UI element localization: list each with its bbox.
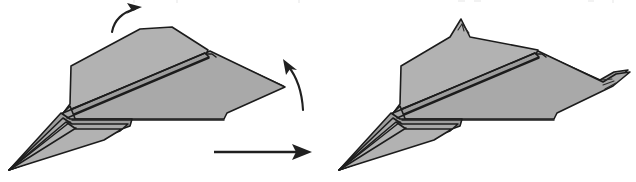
step-transition-arrow — [214, 144, 312, 160]
fold-up-nose-arrow — [112, 3, 142, 32]
paper-nose-tip-after — [339, 122, 452, 170]
diagram-canvas — [0, 0, 636, 182]
before-fold-panel — [9, 3, 303, 170]
fold-up-wingtip-arrow-curve — [288, 66, 303, 110]
paper-nose-tip-before — [9, 122, 122, 170]
fold-up-wingtip-arrow-head — [283, 59, 297, 75]
fold-up-wingtip-arrow — [283, 59, 303, 110]
page-edge-artifacts — [133, 0, 614, 3]
origami-diagram — [0, 0, 636, 182]
fold-up-nose-arrow-head — [126, 3, 142, 14]
after-fold-panel — [339, 19, 630, 170]
fold-up-nose-arrow-curve — [112, 9, 135, 32]
